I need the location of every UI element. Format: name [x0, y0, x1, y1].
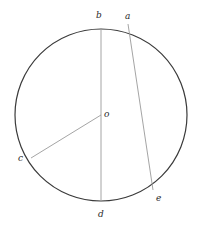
point-label-d: d	[98, 210, 104, 219]
segment-chord-ae	[128, 24, 153, 190]
point-label-b: b	[96, 11, 102, 20]
geometry-diagram: a b c d e o	[0, 0, 210, 230]
point-label-c: c	[18, 154, 23, 163]
point-label-o: o	[104, 110, 109, 119]
point-label-e: e	[156, 194, 161, 203]
segment-radius-oc	[31, 115, 101, 158]
point-label-a: a	[125, 12, 130, 21]
